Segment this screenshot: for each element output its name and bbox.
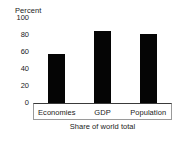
plot-area: 020406080100 [33,18,172,103]
bar [94,31,111,103]
category-label: Population [130,108,166,117]
category-label: GDP [94,108,110,117]
y-tick-label: 40 [21,65,29,73]
category-label: Economies [38,108,76,117]
bar-series [33,18,172,103]
chart-caption: Share of world total [33,122,172,131]
y-tick-label: 20 [21,82,29,90]
y-tick-label: 60 [21,48,29,56]
category-axis-box: EconomiesGDPPopulation [33,103,172,120]
bar-chart-figure: Percent 020406080100 EconomiesGDPPopulat… [0,0,177,147]
y-tick-label: 0 [25,99,29,107]
bar [140,34,157,103]
bar [48,54,65,103]
y-tick-label: 80 [21,31,29,39]
y-tick-label: 100 [16,14,29,22]
